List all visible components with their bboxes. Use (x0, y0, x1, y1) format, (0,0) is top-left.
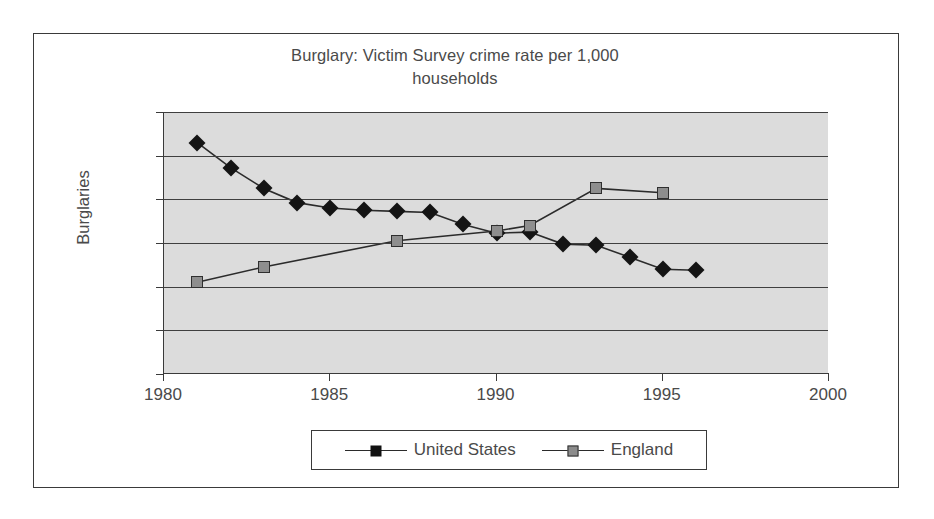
square-marker-icon (567, 445, 578, 456)
legend-item-united-states: United States (345, 440, 516, 460)
legend-line-united-states (345, 450, 407, 451)
x-tick-label-1990: 1990 (477, 385, 515, 405)
x-tick-mark-1990 (496, 373, 497, 381)
legend-item-england: England (542, 440, 673, 460)
legend-line-england (542, 450, 604, 451)
x-tick-mark-1985 (329, 373, 330, 381)
diamond-marker-icon (370, 445, 381, 456)
x-tick-label-1980: 1980 (144, 385, 182, 405)
legend: United States England (311, 430, 707, 470)
x-tick-mark-2000 (828, 373, 829, 381)
legend-label-united-states: United States (414, 440, 516, 460)
x-tick-label-2000: 2000 (809, 385, 847, 405)
x-tick-label-1995: 1995 (643, 385, 681, 405)
legend-label-england: England (611, 440, 673, 460)
x-tick-mark-1980 (163, 373, 164, 381)
chart-figure: Burglary: Victim Survey crime rate per 1… (0, 0, 934, 519)
x-tick-label-1985: 1985 (310, 385, 348, 405)
x-tick-mark-1995 (662, 373, 663, 381)
